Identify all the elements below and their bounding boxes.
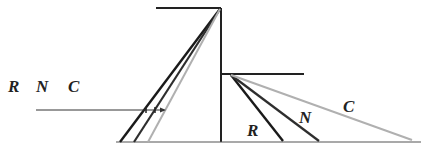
ray-label-c: C [343,97,355,116]
dispersion-diagram: R N C R N C [0,0,421,153]
left-ray-r [120,9,220,142]
left-ray-c [148,9,220,142]
ray-label-n: N [298,108,312,127]
legend-label-c: C [68,77,80,96]
legend-label-r: R [7,77,19,96]
legend-label-n: N [35,77,49,96]
ray-label-r: R [246,121,258,140]
left-ray-n [134,9,220,142]
